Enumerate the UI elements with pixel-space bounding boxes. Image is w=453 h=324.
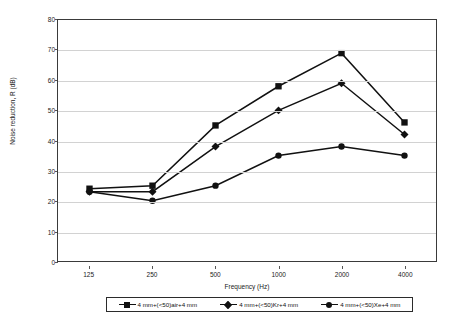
plot-area bbox=[57, 19, 437, 262]
legend-item-krypton: 4 mm+(<50)Kr+4 mm bbox=[220, 301, 298, 309]
x-tick-mark bbox=[89, 266, 90, 269]
y-axis-title: Noise reduction, R (dB) bbox=[9, 31, 17, 191]
data-point bbox=[275, 152, 281, 158]
legend-item-xenon: 4 mm+(<50)Xe+4 mm bbox=[321, 301, 400, 309]
x-tick-label: 2000 bbox=[320, 271, 364, 279]
y-tick-label: 50 bbox=[33, 107, 55, 114]
x-tick-mark bbox=[405, 266, 406, 269]
gridline bbox=[58, 202, 436, 203]
legend-marker-square-icon bbox=[119, 301, 136, 309]
legend-label-air: 4 mm+(<50)air+4 mm bbox=[138, 301, 198, 309]
series-line-2 bbox=[90, 147, 405, 201]
y-tick-label: 10 bbox=[33, 228, 55, 235]
legend-label-xenon: 4 mm+(<50)Xe+4 mm bbox=[340, 301, 400, 309]
data-point bbox=[338, 143, 344, 149]
y-axis: 01020304050607080 bbox=[26, 19, 55, 262]
legend-marker-diamond-icon bbox=[220, 301, 237, 309]
data-series-layer bbox=[58, 20, 436, 261]
x-axis-title: Frequency (Hz) bbox=[57, 283, 437, 291]
gridline bbox=[58, 81, 436, 82]
data-point bbox=[212, 183, 218, 189]
data-point bbox=[401, 119, 407, 125]
y-tick-label: 80 bbox=[33, 16, 55, 23]
legend-item-air: 4 mm+(<50)air+4 mm bbox=[119, 301, 198, 309]
gridline bbox=[58, 111, 436, 112]
x-tick-mark bbox=[279, 266, 280, 269]
x-tick-label: 4000 bbox=[383, 271, 427, 279]
chart-legend: 4 mm+(<50)air+4 mm 4 mm+(<50)Kr+4 mm 4 m… bbox=[106, 297, 413, 312]
x-tick-label: 250 bbox=[130, 271, 174, 279]
y-tick-label: 20 bbox=[33, 198, 55, 205]
x-tick-mark bbox=[215, 266, 216, 269]
noise-reduction-chart: 01020304050607080 Noise reduction, R (dB… bbox=[0, 0, 453, 324]
data-point bbox=[212, 122, 218, 128]
data-point bbox=[275, 83, 281, 89]
y-tick-label: 70 bbox=[33, 46, 55, 53]
y-tick-label: 40 bbox=[33, 137, 55, 144]
y-tick-label: 60 bbox=[33, 76, 55, 83]
x-tick-label: 500 bbox=[193, 271, 237, 279]
gridline bbox=[58, 172, 436, 173]
x-axis: 125250500100020004000 bbox=[57, 266, 437, 278]
legend-marker-circle-icon bbox=[321, 301, 338, 309]
x-tick-label: 1000 bbox=[257, 271, 301, 279]
series-line-0 bbox=[90, 53, 405, 189]
y-tick-mark bbox=[55, 262, 58, 263]
x-tick-mark bbox=[342, 266, 343, 269]
y-tick-label: 0 bbox=[33, 259, 55, 266]
gridline bbox=[58, 233, 436, 234]
legend-label-krypton: 4 mm+(<50)Kr+4 mm bbox=[239, 301, 298, 309]
gridline bbox=[58, 142, 436, 143]
data-point bbox=[401, 152, 407, 158]
series-line-1 bbox=[90, 83, 405, 191]
gridline bbox=[58, 50, 436, 51]
data-point bbox=[86, 189, 92, 195]
x-tick-label: 125 bbox=[67, 271, 111, 279]
y-tick-label: 30 bbox=[33, 167, 55, 174]
x-tick-mark bbox=[152, 266, 153, 269]
